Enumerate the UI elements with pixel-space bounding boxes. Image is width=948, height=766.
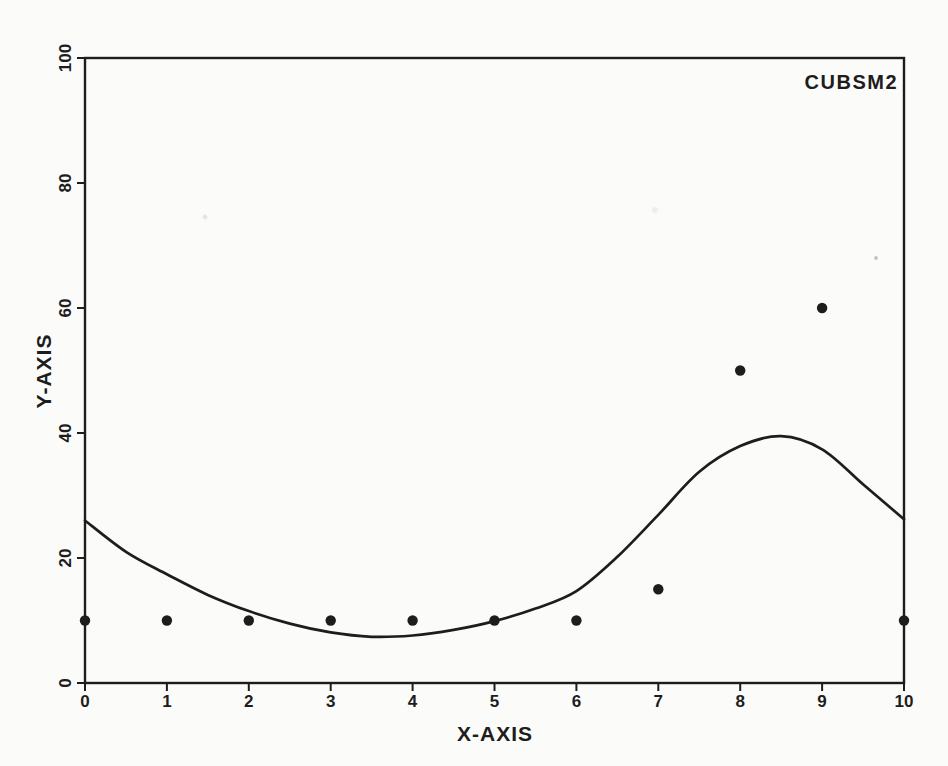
fit-curve (85, 436, 904, 637)
data-point (489, 615, 499, 625)
data-point (653, 584, 663, 594)
plot-frame (85, 58, 904, 683)
y-axis-title: Y-AXIS (32, 334, 56, 409)
y-tick-label: 80 (56, 174, 76, 193)
x-tick-label: 9 (817, 692, 826, 712)
y-tick-label: 20 (56, 549, 76, 568)
plot-canvas (0, 0, 948, 766)
y-tick-label: 100 (56, 44, 76, 72)
x-tick-label: 1 (162, 692, 171, 712)
x-tick-label: 5 (490, 692, 499, 712)
data-point (899, 615, 909, 625)
x-tick-label: 3 (326, 692, 335, 712)
data-point (571, 615, 581, 625)
scanned-plot-page: CUBSM2 X-AXIS Y-AXIS 012345678910 020406… (0, 0, 948, 766)
x-tick-label: 2 (244, 692, 253, 712)
y-tick-label: 60 (56, 299, 76, 318)
x-tick-label: 7 (654, 692, 663, 712)
data-point (162, 615, 172, 625)
plot-title: CUBSM2 (805, 71, 898, 94)
x-axis-title: X-AXIS (457, 722, 533, 746)
data-point (80, 615, 90, 625)
data-point (326, 615, 336, 625)
y-tick-label: 40 (56, 424, 76, 443)
x-tick-label: 6 (572, 692, 581, 712)
x-tick-label: 0 (80, 692, 89, 712)
data-point (407, 615, 417, 625)
x-tick-label: 4 (408, 692, 417, 712)
data-point (735, 365, 745, 375)
data-point (244, 615, 254, 625)
x-tick-label: 10 (895, 692, 914, 712)
data-point (817, 303, 827, 313)
y-tick-label: 0 (56, 678, 76, 687)
x-tick-label: 8 (735, 692, 744, 712)
